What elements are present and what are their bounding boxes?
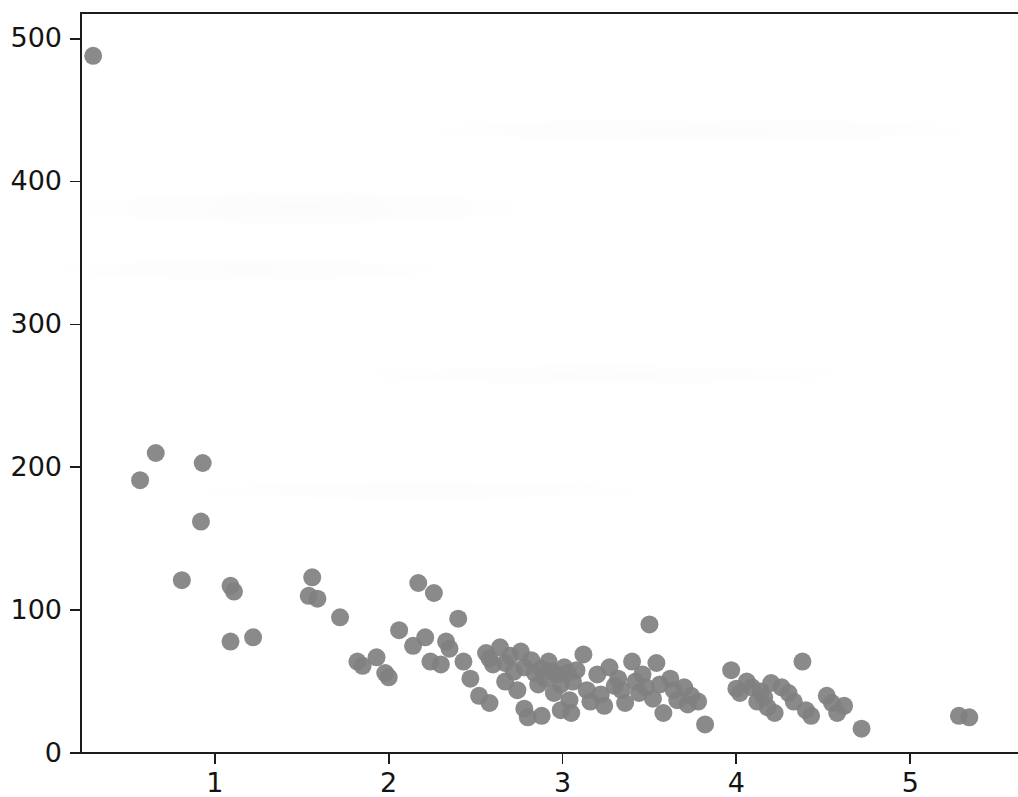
data-point [368,648,386,666]
y-tick-label: 300 [10,308,62,339]
y-tick-label: 0 [45,737,62,768]
data-point [454,653,472,671]
data-point [640,615,658,633]
data-point [416,628,434,646]
y-tick-label: 200 [10,451,62,482]
data-point [425,584,443,602]
data-point [303,568,321,586]
x-tick-label: 1 [206,767,223,797]
data-point [508,681,526,699]
data-point [194,454,212,472]
data-point [225,583,243,601]
data-point [567,661,585,679]
data-point [647,654,665,672]
y-tick-label: 100 [10,594,62,625]
data-point [390,621,408,639]
scatter-plot-figure: 0100200300400500 12345 [0,0,1018,797]
data-point [131,471,149,489]
data-point [853,720,871,738]
y-tick-label: 500 [10,22,62,53]
x-tick-label: 3 [554,767,571,797]
data-point [331,608,349,626]
data-point [308,590,326,608]
data-point [481,694,499,712]
data-point [595,697,613,715]
data-point [244,628,262,646]
x-tick-label: 2 [380,767,397,797]
data-point [722,661,740,679]
x-tick-label: 5 [902,767,919,797]
data-point [960,708,978,726]
data-point [441,640,459,658]
data-point [432,655,450,673]
data-point [766,704,784,722]
plot-canvas: 0100200300400500 12345 [0,0,1018,797]
data-point [173,571,191,589]
data-point [689,693,707,711]
data-point [84,47,102,65]
data-point [192,513,210,531]
data-point [449,610,467,628]
data-point [380,668,398,686]
data-point [147,444,165,462]
data-point [835,697,853,715]
data-point [222,633,240,651]
data-point [562,704,580,722]
data-point [574,645,592,663]
data-point [793,653,811,671]
data-point [696,715,714,733]
x-tick-label: 4 [728,767,745,797]
y-tick-label: 400 [10,165,62,196]
data-point [409,574,427,592]
data-point [802,707,820,725]
data-point [461,670,479,688]
data-point [654,704,672,722]
data-point [533,707,551,725]
